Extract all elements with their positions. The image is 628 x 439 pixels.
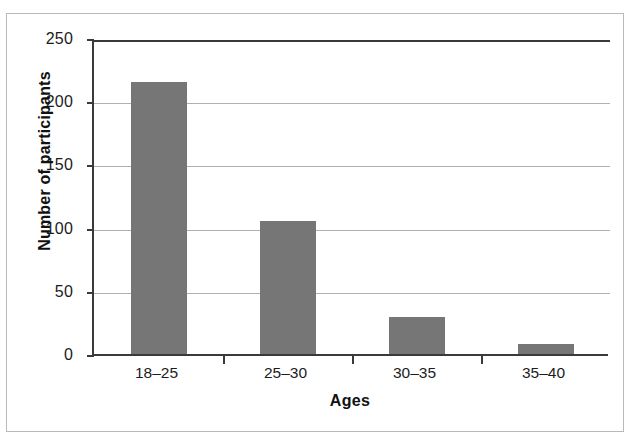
- x-tick-mark-1: [223, 356, 225, 364]
- y-axis-title: Number of participants: [36, 16, 54, 306]
- x-tick-label-30-35: 30–35: [393, 364, 436, 382]
- x-tick-mark-3: [481, 356, 483, 364]
- bar-18-25: [131, 82, 187, 354]
- y-tick-mark-100: [87, 229, 94, 231]
- plot-area: [92, 40, 608, 356]
- gridline-250: [94, 40, 610, 42]
- x-tick-label-18-25: 18–25: [135, 364, 178, 382]
- y-tick-mark-0: [87, 355, 94, 357]
- x-tick-label-25-30: 25–30: [264, 364, 307, 382]
- y-tick-label-0: 0: [64, 346, 73, 364]
- x-axis-tick-labels: 18–2525–3030–3535–40: [92, 364, 608, 386]
- y-tick-mark-150: [87, 165, 94, 167]
- x-axis-title: Ages: [92, 392, 608, 410]
- y-tick-mark-200: [87, 102, 94, 104]
- x-tick-mark-2: [352, 356, 354, 364]
- x-tick-label-35-40: 35–40: [522, 364, 565, 382]
- bar-25-30: [260, 221, 316, 354]
- bar-30-35: [389, 317, 445, 354]
- y-tick-mark-50: [87, 292, 94, 294]
- y-tick-label-50: 50: [55, 283, 73, 301]
- y-tick-mark-250: [87, 39, 94, 41]
- bar-chart-figure: 050100150200250 18–2525–3030–3535–40 Age…: [0, 0, 628, 439]
- bar-35-40: [518, 344, 574, 354]
